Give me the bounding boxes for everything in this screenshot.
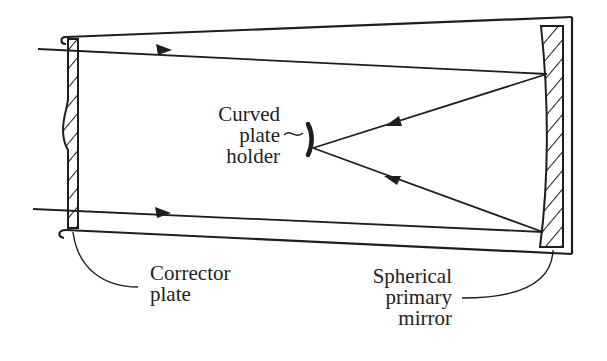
label-line: holder: [186, 146, 280, 167]
spherical-primary-mirror: [540, 26, 563, 247]
telescope-tube: [59, 17, 572, 254]
label-corrector-plate: Corrector plate: [150, 263, 230, 305]
label-line: Corrector: [150, 263, 230, 284]
plate-holder-leader: [284, 133, 303, 136]
mirror-leader: [462, 250, 553, 298]
label-line: Curved: [186, 104, 280, 125]
arrow-right-icon: [156, 44, 172, 55]
lower-reflected-ray: [313, 148, 543, 232]
leader-lines: [73, 133, 553, 298]
label-line: mirror: [350, 308, 452, 329]
upper-reflected-ray: [313, 74, 547, 148]
light-rays: [33, 49, 547, 232]
arrow-right-icon: [155, 207, 171, 218]
curved-plate-holder: [308, 124, 312, 155]
lower-incoming-ray: [33, 209, 543, 232]
corrector-plate: [63, 39, 78, 228]
label-curved-plate-holder: Curved plate holder: [186, 104, 280, 167]
arrow-left-icon: [385, 116, 402, 126]
label-line: Spherical: [350, 266, 452, 287]
label-line: primary: [350, 287, 452, 308]
corrector-leader: [73, 232, 138, 287]
upper-incoming-ray: [38, 49, 547, 74]
arrow-left-icon: [384, 176, 401, 185]
schmidt-camera-diagram: [0, 0, 607, 361]
label-spherical-primary-mirror: Spherical primary mirror: [350, 266, 452, 329]
label-line: plate: [186, 125, 280, 146]
label-line: plate: [150, 284, 230, 305]
